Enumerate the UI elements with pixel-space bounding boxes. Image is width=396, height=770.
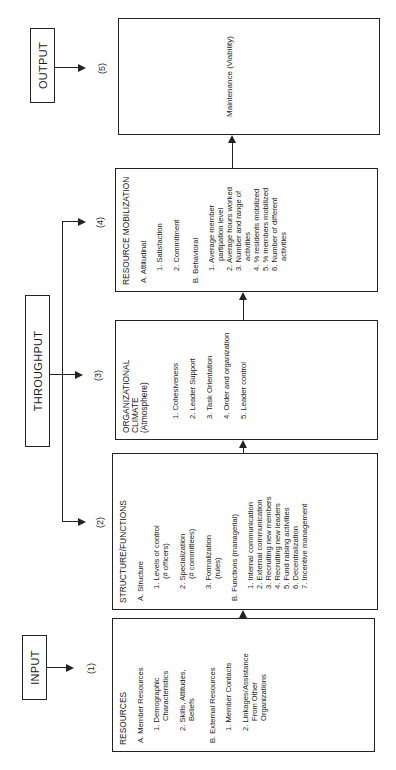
structure-section-a: A. Structure bbox=[136, 458, 145, 601]
stage-number-4: (4) bbox=[95, 217, 105, 228]
list-item: 6. Decentralization bbox=[291, 458, 300, 589]
output-connector bbox=[55, 67, 80, 68]
output-header-label: OUTPUT bbox=[37, 42, 49, 89]
list-item: 1. Demographic Characteristics bbox=[152, 623, 170, 731]
list-item: 6. Number of different activities bbox=[270, 173, 288, 271]
list-item: 7. Incentive management bbox=[300, 458, 309, 589]
stage-number-2: (2) bbox=[95, 517, 105, 528]
resources-title: RESOURCES bbox=[119, 623, 128, 745]
list-item: 2. Specialization (# committees) bbox=[178, 458, 196, 589]
list-item: 1. Average member partipation level bbox=[207, 173, 225, 271]
list-item: 1. Cohesiveness bbox=[171, 325, 180, 419]
list-item: 4. Order and organization bbox=[222, 325, 231, 419]
list-item: 2. Linkages/Assistance From Other Organi… bbox=[241, 623, 268, 731]
throughput-header-box: THROUGHPUT bbox=[25, 295, 50, 447]
flow-connector bbox=[243, 300, 244, 320]
arrow-head-icon bbox=[78, 518, 86, 526]
arrow-head-icon bbox=[66, 664, 74, 672]
list-item: 3. Recruiting new members bbox=[264, 458, 273, 589]
arrow-head-icon bbox=[75, 371, 83, 379]
mobilization-section-b: B. Behavioral bbox=[191, 173, 200, 283]
list-item: 2. Leader Support bbox=[188, 325, 197, 419]
list-item: 1. Internal communication bbox=[246, 458, 255, 589]
list-item: 5. Leader control bbox=[239, 325, 248, 419]
throughput-bracket bbox=[62, 221, 63, 522]
arrow-head-icon bbox=[78, 218, 86, 226]
resources-section-b: B. External Resources bbox=[208, 623, 217, 743]
list-item: 1. Levels of control (# officers) bbox=[152, 458, 170, 589]
climate-title: ORGANIZATIONAL CLIMATE (Atmosphere) bbox=[122, 325, 149, 433]
list-item: 2. Skills, Attitudes, Beliefs bbox=[178, 623, 196, 731]
list-item: 5. Fund raising activities bbox=[282, 458, 291, 589]
arrow-head-icon bbox=[78, 64, 86, 72]
list-item: 4. Recruiting new leaders bbox=[273, 458, 282, 589]
list-item: 4. % residents mobilized bbox=[252, 173, 261, 271]
structure-section-b: B. Functions (managerial) bbox=[230, 458, 239, 601]
resource-mobilization-box: RESOURCE MOBILIZATION A. Attitudinal 1. … bbox=[115, 168, 378, 292]
input-header-label: INPUT bbox=[29, 650, 41, 685]
stage-number-5: (5) bbox=[97, 63, 107, 74]
list-item: 2. Commitment bbox=[172, 173, 181, 271]
arrow-head-icon bbox=[239, 440, 247, 448]
list-item: 2. External communication bbox=[255, 458, 264, 589]
diagram-canvas: INPUT (1) THROUGHPUT (3) (2) (4) OUTPUT … bbox=[0, 0, 396, 770]
maintenance-label: Maintenance (Viability) bbox=[225, 19, 234, 134]
list-item: 3. Task Orientation bbox=[205, 325, 214, 419]
organizational-climate-box: ORGANIZATIONAL CLIMATE (Atmosphere) 1. C… bbox=[115, 320, 378, 440]
maintenance-box: Maintenance (Viability) bbox=[118, 18, 380, 135]
list-item: 3. Number and range of activities bbox=[234, 173, 252, 271]
output-header-box: OUTPUT bbox=[30, 28, 55, 103]
structure-functions-box: STRUCTURE/FUNCTIONS A. Structure 1. Leve… bbox=[112, 453, 378, 610]
resources-section-a: A. Member Resources bbox=[136, 623, 145, 743]
list-item: 1. Satisfaction bbox=[155, 173, 164, 271]
mobilization-title: RESOURCE MOBILIZATION bbox=[122, 173, 131, 285]
mobilization-section-a: A. Attitudinal bbox=[139, 173, 148, 283]
list-item: 2. Average hours worked bbox=[225, 173, 234, 271]
stage-number-1: (1) bbox=[86, 663, 96, 674]
structure-title: STRUCTURE/FUNCTIONS bbox=[119, 458, 128, 603]
list-item: 3. Formalization (rules) bbox=[204, 458, 222, 589]
resources-box: RESOURCES A. Member Resources 1. Demogra… bbox=[112, 618, 375, 752]
list-item: 5. % members mobilized bbox=[261, 173, 270, 271]
flow-connector bbox=[232, 142, 233, 168]
list-item: 1. Member Contacts bbox=[224, 623, 233, 731]
arrow-head-icon bbox=[239, 610, 247, 618]
input-header-box: INPUT bbox=[22, 635, 47, 700]
stage-number-3: (3) bbox=[93, 370, 103, 381]
arrow-head-icon bbox=[239, 292, 247, 300]
throughput-header-label: THROUGHPUT bbox=[32, 331, 44, 412]
arrow-head-icon bbox=[228, 135, 236, 143]
